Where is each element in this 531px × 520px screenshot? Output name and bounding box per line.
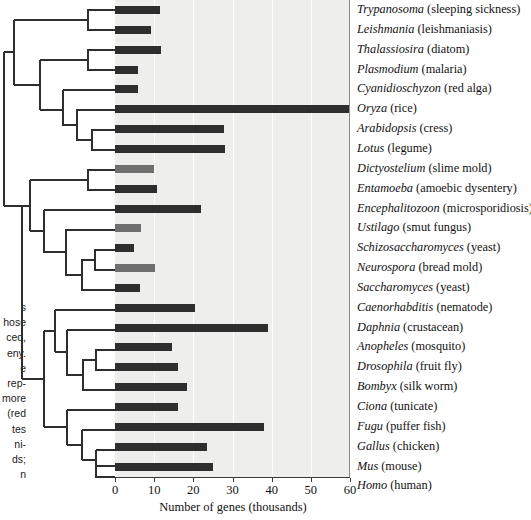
bar (115, 244, 134, 252)
taxon-common-name: (rice) (387, 101, 417, 115)
axis-tick-label: 20 (187, 483, 200, 498)
taxon-common-name: (yeast) (464, 240, 501, 254)
taxon-common-name: (chicken) (390, 439, 440, 453)
bar (115, 205, 201, 213)
bar (115, 304, 195, 312)
taxon-label: Mus (mouse) (357, 460, 422, 472)
bar (115, 185, 157, 193)
taxon-common-name: (fruit fly) (413, 359, 462, 373)
axis-tick (154, 478, 155, 482)
axis-tick (233, 478, 234, 482)
taxon-common-name: (nematode) (433, 300, 492, 314)
taxon-genus: Schizosaccharomyces (357, 240, 464, 254)
taxon-common-name: (human) (387, 478, 432, 492)
taxon-label: Gallus (chicken) (357, 440, 439, 452)
taxon-label: Caenorhabditis (nematode) (357, 301, 492, 313)
axis-tick-label: 60 (344, 483, 357, 498)
gridline (233, 0, 234, 477)
bar (115, 66, 138, 74)
axis-tick (115, 478, 116, 482)
taxon-genus: Neurospora (357, 260, 415, 274)
axis-tick (350, 478, 351, 482)
taxon-common-name: (legume) (384, 141, 431, 155)
phylogenetic-tree (0, 0, 116, 478)
taxon-common-name: (crustacean) (400, 320, 463, 334)
taxon-genus: Drosophila (357, 359, 413, 373)
bar (115, 443, 207, 451)
taxon-genus: Ustilago (357, 220, 399, 234)
bar-plot-panel (115, 0, 350, 478)
bar (115, 105, 350, 113)
taxon-genus: Saccharomyces (357, 280, 433, 294)
taxon-common-name: (red alga) (441, 81, 492, 95)
taxon-genus: Plasmodium (357, 62, 419, 76)
taxon-common-name: (bread mold) (415, 260, 482, 274)
taxon-common-name: (diatom) (424, 42, 469, 56)
taxon-label: Bombyx (silk worm) (357, 380, 457, 392)
axis-tick-label: 10 (148, 483, 161, 498)
axis-tick (272, 478, 273, 482)
taxon-label: Dictyostelium (slime mold) (357, 162, 492, 174)
taxon-genus: Caenorhabditis (357, 300, 433, 314)
taxon-genus: Encephalitozoon (357, 201, 440, 215)
bar (115, 324, 268, 332)
taxon-common-name: (malaria) (419, 62, 467, 76)
taxon-label: Cyanidioschyzon (red alga) (357, 82, 492, 94)
taxon-label: Plasmodium (malaria) (357, 63, 467, 75)
taxon-genus: Oryza (357, 101, 387, 115)
taxon-genus: Lotus (357, 141, 384, 155)
taxon-common-name: (amoebic dysentery) (413, 181, 517, 195)
taxon-label: Ciona (tunicate) (357, 400, 437, 412)
taxon-genus: Entamoeba (357, 181, 413, 195)
taxon-genus: Thalassiosira (357, 42, 424, 56)
taxon-label: Neurospora (bread mold) (357, 261, 482, 273)
bar (115, 383, 187, 391)
axis-tick-label: 40 (265, 483, 278, 498)
taxon-common-name: (sleeping sickness) (424, 2, 520, 16)
taxon-label: Encephalitozoon (microsporidiosis) (357, 202, 531, 214)
bar (115, 363, 178, 371)
taxon-label: Arabidopsis (cress) (357, 122, 452, 134)
taxon-genus: Anopheles (357, 339, 408, 353)
bar (115, 85, 138, 93)
taxon-common-name: (slime mold) (425, 161, 491, 175)
gridline (311, 0, 312, 477)
taxon-common-name: (leishmaniasis) (414, 22, 492, 36)
taxon-common-name: (mosquito) (408, 339, 465, 353)
taxon-label: Ustilago (smut fungus) (357, 221, 471, 233)
taxon-label: Thalassiosira (diatom) (357, 43, 469, 55)
taxon-common-name: (yeast) (433, 280, 470, 294)
taxon-genus: Bombyx (357, 379, 397, 393)
bar (115, 125, 224, 133)
bar (115, 26, 151, 34)
taxon-label: Daphnia (crustacean) (357, 321, 463, 333)
axis-tick (311, 478, 312, 482)
taxon-label: Homo (human) (357, 479, 432, 491)
taxon-label: Fugu (puffer fish) (357, 420, 446, 432)
taxon-common-name: (tunicate) (387, 399, 437, 413)
bar (115, 46, 161, 54)
taxon-genus: Gallus (357, 439, 390, 453)
gene-count-phylogeny-figure: s hose ced, eny. e rep- more (red tes ni… (0, 0, 531, 520)
taxon-label: Trypanosoma (sleeping sickness) (357, 3, 520, 15)
taxon-genus: Ciona (357, 399, 387, 413)
taxon-common-name: (silk worm) (397, 379, 458, 393)
bar (115, 343, 172, 351)
bar (115, 403, 178, 411)
taxon-label-list: Trypanosoma (sleeping sickness)Leishmani… (357, 0, 531, 478)
taxon-label: Anopheles (mosquito) (357, 340, 465, 352)
taxon-common-name: (cress) (416, 121, 452, 135)
bar (115, 6, 160, 14)
taxon-genus: Homo (357, 478, 387, 492)
axis-tick (193, 478, 194, 482)
x-axis-title: Number of genes (thousands) (115, 500, 351, 515)
bar (115, 264, 155, 272)
taxon-genus: Trypanosoma (357, 2, 424, 16)
taxon-common-name: (smut fungus) (399, 220, 471, 234)
bar (115, 284, 140, 292)
taxon-label: Lotus (legume) (357, 142, 432, 154)
taxon-label: Drosophila (fruit fly) (357, 360, 462, 372)
gridline (193, 0, 194, 477)
axis-tick-label: 30 (226, 483, 239, 498)
taxon-genus: Mus (357, 459, 378, 473)
